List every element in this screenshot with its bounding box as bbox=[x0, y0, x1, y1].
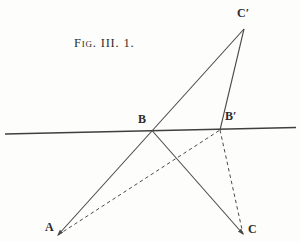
point-label-C: C bbox=[248, 223, 257, 235]
figure-page: Fig. III. 1. A B B′ C C′ bbox=[0, 0, 300, 242]
point-label-B: B bbox=[138, 113, 146, 125]
line-Bprime-C bbox=[220, 130, 243, 234]
point-label-C-prime: C′ bbox=[237, 7, 249, 19]
figure-canvas bbox=[0, 0, 300, 242]
point-label-A: A bbox=[45, 221, 54, 233]
point-label-B-prime: B′ bbox=[225, 110, 236, 122]
line-B-C bbox=[152, 131, 243, 235]
figure-caption: Fig. III. 1. bbox=[74, 36, 134, 51]
